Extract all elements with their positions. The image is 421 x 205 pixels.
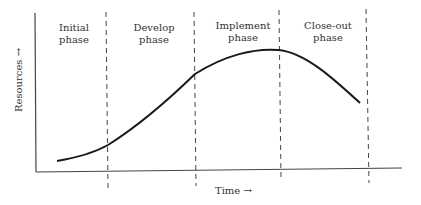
x-axis	[36, 168, 402, 172]
phase-divider-4	[366, 9, 369, 183]
x-axis-label: Time →	[215, 185, 252, 196]
resource-curve	[57, 50, 360, 161]
phase-divider-3	[279, 10, 281, 178]
phase-label-implement: Implement phase	[210, 20, 276, 44]
phase-label-initial: Initial phase	[48, 22, 100, 46]
y-axis	[35, 13, 36, 172]
phase-divider-2	[194, 12, 196, 186]
phase-label-develop: Develop phase	[126, 22, 182, 46]
phase-label-closeout: Close-out phase	[296, 20, 360, 44]
y-axis-label: Resources →	[13, 48, 24, 112]
phase-divider-1	[106, 12, 108, 188]
